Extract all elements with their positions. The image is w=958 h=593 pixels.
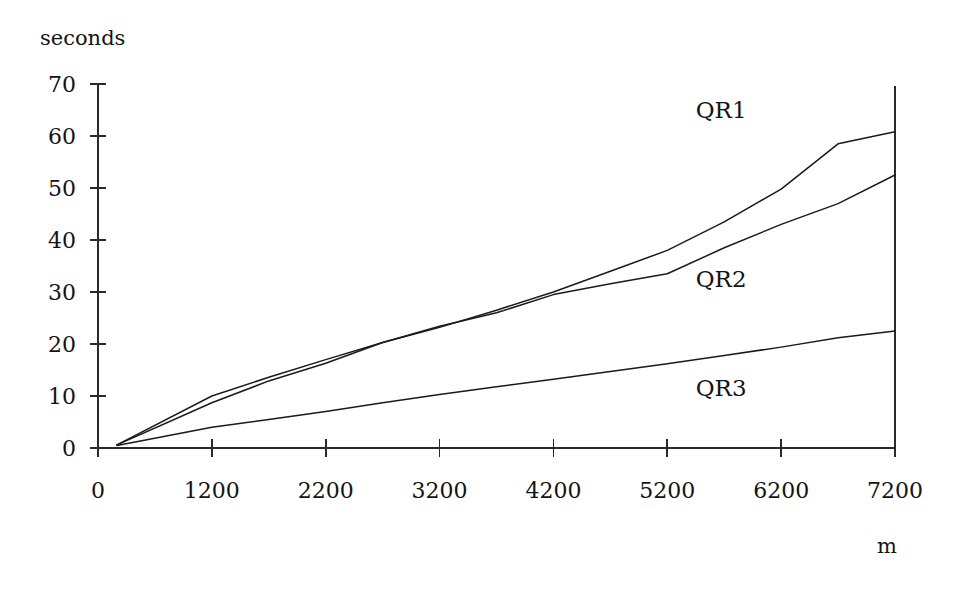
x-tick-label: 5200	[639, 478, 695, 503]
x-tick-label: 6200	[753, 478, 809, 503]
y-tick-label: 0	[62, 436, 76, 461]
x-tick-label: 3200	[412, 478, 468, 503]
x-tick-label: 1200	[184, 478, 240, 503]
y-tick-label: 10	[48, 384, 76, 409]
y-tick-label: 50	[48, 176, 76, 201]
x-tick-label: 7200	[867, 478, 923, 503]
x-tick-label: 0	[91, 478, 105, 503]
y-axis-title: seconds	[40, 26, 125, 50]
x-tick-labels: 01200220032004200520062007200	[91, 478, 923, 503]
series-label-qr2: QR2	[696, 266, 747, 292]
line-chart: seconds m 010203040506070 01200220032004…	[0, 0, 958, 593]
y-tick-label: 20	[48, 332, 76, 357]
y-tick-label: 60	[48, 124, 76, 149]
series-label-qr3: QR3	[696, 375, 747, 401]
series-line-qr2	[117, 175, 895, 445]
y-tick-label: 30	[48, 280, 76, 305]
data-series	[117, 132, 895, 446]
y-tick-label: 40	[48, 228, 76, 253]
series-line-qr1	[117, 132, 895, 445]
y-tick-label: 70	[48, 72, 76, 97]
y-tick-labels: 010203040506070	[48, 72, 76, 461]
x-tick-label: 4200	[525, 478, 581, 503]
x-axis-title: m	[877, 534, 897, 558]
series-label-qr1: QR1	[696, 97, 747, 123]
tick-marks	[90, 84, 895, 457]
chart-container: seconds m 010203040506070 01200220032004…	[0, 0, 958, 593]
x-tick-label: 2200	[298, 478, 354, 503]
